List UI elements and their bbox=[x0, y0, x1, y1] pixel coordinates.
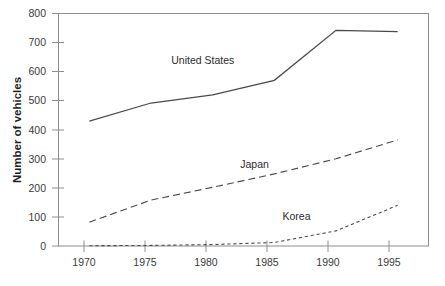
series-label-korea: Korea bbox=[283, 210, 311, 222]
x-tick-label-1975: 1975 bbox=[133, 256, 157, 268]
y-tick-label-200: 200 bbox=[28, 182, 46, 194]
y-tick-label-700: 700 bbox=[28, 36, 46, 48]
x-tick-label-1970: 1970 bbox=[72, 256, 96, 268]
y-tick-label-800: 800 bbox=[28, 7, 46, 19]
y-axis-title: Number of vehicles bbox=[11, 77, 23, 183]
y-tick-label-400: 400 bbox=[28, 124, 46, 136]
plot-area-border bbox=[59, 14, 429, 247]
y-tick-label-600: 600 bbox=[28, 65, 46, 77]
x-tick-label-1995: 1995 bbox=[377, 256, 401, 268]
y-tick-label-0: 0 bbox=[40, 240, 46, 252]
y-tick-label-500: 500 bbox=[28, 94, 46, 106]
y-tick-label-100: 100 bbox=[28, 211, 46, 223]
line-chart: 0 100 200 300 400 500 600 700 800 Number… bbox=[0, 0, 445, 286]
x-tick-label-1990: 1990 bbox=[316, 256, 340, 268]
x-tick-label-1985: 1985 bbox=[255, 256, 279, 268]
x-tick-label-1980: 1980 bbox=[194, 256, 218, 268]
series-label-united-states: United States bbox=[171, 54, 234, 66]
series-label-japan: Japan bbox=[240, 158, 269, 170]
y-tick-label-300: 300 bbox=[28, 153, 46, 165]
